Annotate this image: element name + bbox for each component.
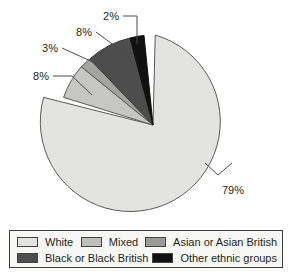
pct-label-black-british: 8%: [76, 26, 92, 38]
legend-label-black-british: Black or Black British: [45, 253, 148, 264]
legend-item-mixed: Mixed: [81, 237, 138, 248]
legend-label-other: Other ethnic groups: [180, 253, 277, 264]
legend-item-white: White: [17, 237, 73, 248]
legend-row: Black or Black British Other ethnic grou…: [17, 250, 277, 266]
legend-item-asian: Asian or Asian British: [145, 237, 277, 248]
legend-swatch-asian: [145, 237, 166, 247]
legend-swatch-black-british: [17, 253, 38, 263]
legend-row: White Mixed Asian or Asian British: [17, 234, 277, 250]
pct-label-white: 79%: [222, 184, 244, 196]
pie-chart-figure: 2% 8% 3% 8% 79% White Mixed Asian or Asi…: [0, 0, 295, 275]
legend-swatch-white: [17, 237, 38, 247]
legend-swatch-other: [152, 253, 173, 263]
legend-swatch-mixed: [81, 237, 102, 247]
legend-item-black-british: Black or Black British: [17, 253, 148, 264]
leader-line-asian: [62, 48, 95, 63]
chart-legend: White Mixed Asian or Asian British Black…: [9, 230, 283, 268]
legend-label-mixed: Mixed: [109, 237, 138, 248]
pie-plot-area: 2% 8% 3% 8% 79%: [0, 0, 295, 222]
pct-label-mixed: 8%: [33, 70, 49, 82]
pct-label-other: 2%: [103, 10, 119, 22]
legend-label-white: White: [45, 237, 73, 248]
pie-svg: 2% 8% 3% 8% 79%: [0, 0, 295, 222]
pct-label-asian: 3%: [42, 42, 58, 54]
legend-label-asian: Asian or Asian British: [173, 237, 277, 248]
legend-item-other: Other ethnic groups: [152, 253, 277, 264]
